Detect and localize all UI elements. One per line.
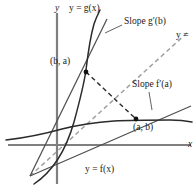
curve-g: [34, 10, 100, 184]
y-axis-label: y: [55, 4, 59, 14]
identity-line-y-equals-x: [30, 32, 188, 176]
curve-g-label: y = g(x): [69, 4, 100, 14]
curve-f-label: y = f(x): [85, 165, 114, 175]
point-marker-b-a: [84, 70, 89, 75]
leader-line-slope-g: [105, 25, 122, 33]
tangent-line-slope-g-prime-b: [30, 19, 107, 176]
point-b-a-label: (b, a): [50, 57, 70, 67]
diagram-canvas: [0, 0, 195, 186]
slope-f-prime-a-label: Slope f′(a): [132, 80, 172, 90]
x-axis-label: x: [188, 140, 192, 150]
slope-g-prime-b-label: Slope g′(b): [124, 17, 166, 27]
point-a-b-label: (a, b): [133, 123, 153, 133]
point-marker-a-b: [134, 117, 139, 122]
reflection-connector-dashed: [86, 72, 136, 119]
curve-f: [6, 120, 192, 140]
inverse-function-diagram: y x y = g(x) y = f(x) Slope g′(b) Slope …: [0, 0, 195, 186]
axes-group: [8, 13, 191, 184]
identity-line-label: y =: [176, 31, 188, 41]
leader-line-slope-f: [149, 92, 152, 110]
